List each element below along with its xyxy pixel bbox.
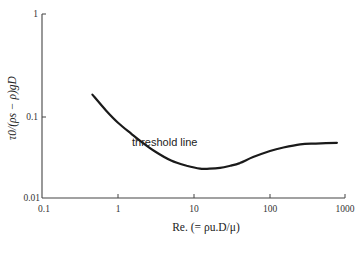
y-tick-label: 0.01	[23, 193, 40, 203]
chart: 1 0.1 0.01 τ0/(ρs − ρ)gD 0.1 1 10 100 10…	[0, 0, 364, 259]
y-tick-label: 1	[33, 9, 38, 19]
threshold-curve	[92, 95, 337, 169]
x-axis-title: Re. (= ρu.D/μ)	[172, 221, 240, 234]
y-axis: 1 0.1 0.01 τ0/(ρs − ρ)gD	[6, 9, 46, 203]
x-tick-label: 10	[189, 204, 199, 214]
y-tick-label: 0.1	[26, 112, 38, 122]
x-tick-label: 1000	[336, 204, 355, 214]
x-tick-label: 1	[116, 204, 121, 214]
x-tick-label: 100	[263, 204, 278, 214]
y-axis-title: τ0/(ρs − ρ)gD	[6, 75, 19, 139]
x-tick-label: 0.1	[38, 204, 50, 214]
threshold-line-label: threshold line	[132, 136, 197, 148]
x-axis: 0.1 1 10 100 1000 Re. (= ρu.D/μ)	[38, 194, 355, 234]
